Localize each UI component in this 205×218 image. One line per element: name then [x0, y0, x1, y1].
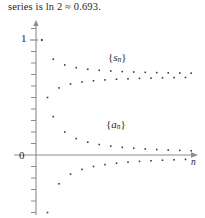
- data-point-an: [139, 161, 141, 163]
- an-brace-close: }: [121, 118, 126, 130]
- data-point-sn: [110, 70, 112, 72]
- data-point-sn: [190, 72, 192, 74]
- data-point-an: [87, 141, 89, 143]
- data-point-sn: [58, 87, 60, 89]
- data-point-an: [121, 147, 123, 149]
- data-point-sn: [139, 78, 141, 80]
- data-point-sn: [104, 79, 106, 81]
- data-point-an: [185, 159, 187, 161]
- data-point-an: [144, 148, 146, 150]
- sn-brace-close: }: [121, 51, 126, 63]
- data-point-an: [116, 162, 118, 164]
- data-point-an: [179, 150, 181, 152]
- data-point-an: [110, 145, 112, 147]
- data-point-an: [173, 159, 175, 161]
- plot-canvas: [0, 0, 205, 218]
- data-point-sn: [93, 80, 95, 82]
- data-point-sn: [81, 81, 83, 83]
- data-point-sn: [47, 97, 49, 99]
- data-point-sn: [144, 72, 146, 74]
- data-point-an: [127, 161, 129, 163]
- data-point-sn: [87, 68, 89, 70]
- data-point-sn: [173, 77, 175, 79]
- data-point-sn: [127, 78, 129, 80]
- data-point-sn: [52, 58, 54, 60]
- data-point-sn: [162, 77, 164, 79]
- data-point-an: [93, 166, 95, 168]
- data-point-an: [52, 116, 54, 118]
- data-point-sn: [70, 83, 72, 85]
- data-point-an: [81, 169, 83, 171]
- y-axis-arrowhead: [33, 20, 38, 26]
- series-sn-points: [41, 39, 192, 98]
- data-point-an: [190, 150, 192, 152]
- data-point-sn: [167, 72, 169, 74]
- data-point-sn: [156, 72, 158, 74]
- figure-container: series is ln 2 ≈ 0.693. 1 0 n {sn} {an}: [0, 0, 205, 218]
- data-point-sn: [185, 77, 187, 79]
- data-point-sn: [75, 67, 77, 69]
- y-axis-ticks: [30, 29, 38, 213]
- data-point-sn: [179, 72, 181, 74]
- data-point-an: [98, 144, 100, 146]
- x-axis-name-label: n: [191, 157, 196, 167]
- data-point-an: [70, 173, 72, 175]
- data-point-an: [75, 138, 77, 140]
- data-point-an: [64, 131, 66, 133]
- series-label-sn: {sn}: [108, 51, 127, 64]
- series-label-an: {an}: [106, 118, 126, 131]
- data-point-sn: [133, 71, 135, 73]
- data-point-an: [133, 147, 135, 149]
- data-point-an: [150, 160, 152, 162]
- data-point-an: [47, 212, 49, 214]
- data-point-an: [156, 149, 158, 151]
- y-axis-tick-label-1: 1: [21, 32, 27, 44]
- data-point-an: [104, 164, 106, 166]
- y-axis-tick-label-0: 0: [19, 149, 25, 161]
- data-point-an: [58, 183, 60, 185]
- data-point-sn: [98, 70, 100, 72]
- data-point-an: [162, 159, 164, 161]
- data-point-an: [41, 39, 43, 41]
- data-point-an: [167, 149, 169, 151]
- data-point-sn: [121, 71, 123, 73]
- data-point-sn: [64, 64, 66, 66]
- data-point-sn: [116, 78, 118, 80]
- data-point-sn: [150, 77, 152, 79]
